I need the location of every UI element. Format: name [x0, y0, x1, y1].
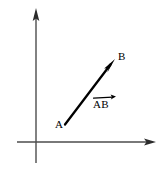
vector-label-ab: AB	[93, 99, 109, 110]
point-label-b: B	[118, 51, 125, 62]
point-label-a: A	[55, 119, 63, 130]
diagram-canvas	[0, 0, 167, 174]
vector-diagram-figure: A B AB	[0, 0, 167, 174]
